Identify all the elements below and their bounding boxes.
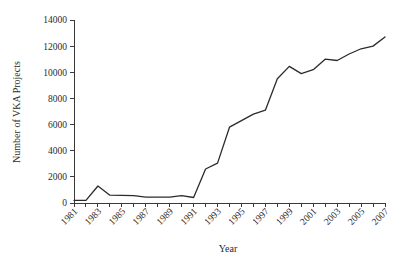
x-axis <box>74 203 385 207</box>
x-tick-label: 1991 <box>179 206 200 227</box>
y-tick-label: 10000 <box>43 68 67 78</box>
y-tick-label: 12000 <box>43 42 67 52</box>
y-axis-title: Number of VKA Projects <box>11 61 22 163</box>
y-tick-label: 2000 <box>48 172 67 182</box>
x-tick-label: 2001 <box>298 206 319 227</box>
x-tick-label: 1999 <box>274 206 295 227</box>
x-tick-label: 1983 <box>83 206 104 227</box>
line-chart: 02000400060008000100001200014000 1981198… <box>0 0 410 258</box>
x-tick-label: 1993 <box>202 206 223 227</box>
x-tick-label: 1989 <box>155 206 176 227</box>
data-series-line <box>74 37 385 200</box>
y-axis <box>70 20 74 203</box>
x-axis-title: Year <box>219 243 238 254</box>
y-tick-label: 14000 <box>43 15 67 25</box>
x-tick-labels: 1981198319851987198919911993199519971999… <box>59 206 391 227</box>
x-tick-label: 1985 <box>107 206 128 227</box>
y-tick-label: 0 <box>62 198 67 208</box>
x-tick-label: 1987 <box>131 206 152 227</box>
y-tick-label: 6000 <box>48 120 67 130</box>
y-tick-label: 8000 <box>48 94 67 104</box>
x-tick-label: 2003 <box>322 206 343 227</box>
chart-figure: 02000400060008000100001200014000 1981198… <box>0 0 410 258</box>
y-tick-labels: 02000400060008000100001200014000 <box>43 15 67 208</box>
x-tick-label: 2007 <box>370 206 391 227</box>
x-tick-label: 2005 <box>346 206 367 227</box>
x-tick-label: 1997 <box>250 206 271 227</box>
x-tick-label: 1981 <box>59 206 80 227</box>
x-tick-label: 1995 <box>226 206 247 227</box>
y-tick-label: 4000 <box>48 146 67 156</box>
